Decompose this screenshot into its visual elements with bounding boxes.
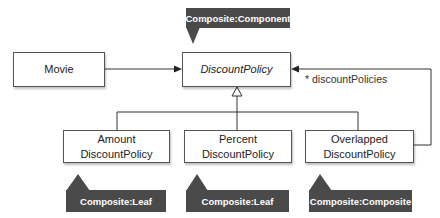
class-discount-policy: DiscountPolicy <box>182 52 291 87</box>
association-role-label: * discountPolicies <box>305 73 387 85</box>
class-label: DiscountPolicy <box>200 62 272 77</box>
class-overlapped-discount-policy: Overlapped DiscountPolicy <box>305 130 414 163</box>
tag-pointer-icon <box>309 174 332 191</box>
tag-composite-composite: Composite:Composite <box>309 190 412 212</box>
class-label: Amount DiscountPolicy <box>80 132 152 162</box>
association-arrowhead-icon <box>174 66 182 73</box>
connector-lines <box>0 0 440 218</box>
tag-composite-leaf-amount: Composite:Leaf <box>66 190 166 212</box>
tag-pointer-icon <box>186 27 200 44</box>
class-label: Movie <box>44 62 73 77</box>
class-movie: Movie <box>13 52 105 87</box>
class-label: Overlapped DiscountPolicy <box>323 132 395 162</box>
class-amount-discount-policy: Amount DiscountPolicy <box>63 130 170 163</box>
tag-pointer-icon <box>66 174 90 191</box>
association-arrowhead-icon <box>291 66 299 73</box>
tag-pointer-icon <box>186 174 208 191</box>
tag-composite-leaf-percent: Composite:Leaf <box>186 190 289 212</box>
tag-composite-component: Composite:Component <box>186 8 290 28</box>
class-percent-discount-policy: Percent DiscountPolicy <box>184 130 292 163</box>
generalization-triangle-icon <box>232 87 242 96</box>
class-label: Percent DiscountPolicy <box>202 132 274 162</box>
